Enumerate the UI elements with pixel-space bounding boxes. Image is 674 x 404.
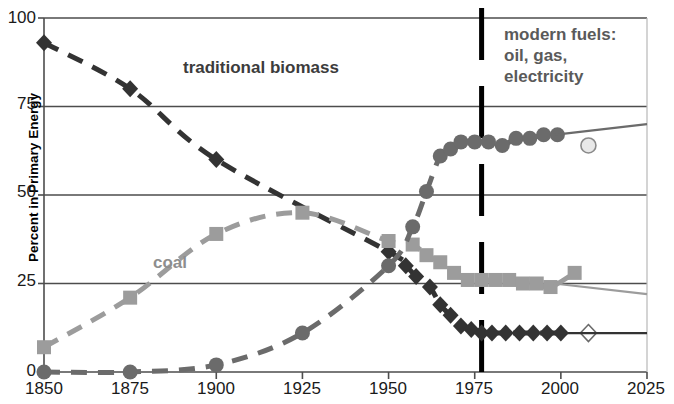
marker-square-1875 <box>123 291 137 305</box>
y-tick-25: 25 <box>0 271 36 291</box>
marker-square-1977 <box>475 273 489 287</box>
x-tick-1950: 1950 <box>348 379 428 399</box>
marker-circle-1925 <box>295 326 310 341</box>
marker-diamond-1984 <box>498 325 514 342</box>
marker-diamond-1988 <box>512 325 528 342</box>
annotation-coal: coal <box>153 253 187 273</box>
marker-square-1973 <box>461 273 475 287</box>
marker-circle-1979 <box>481 134 496 149</box>
x-tick-1925: 1925 <box>262 379 342 399</box>
marker-circle-1875 <box>123 365 138 380</box>
annotation-traditional-biomass: traditional biomass <box>183 58 339 78</box>
marker-circle-1975 <box>467 134 482 149</box>
marker-diamond-1980 <box>484 325 500 342</box>
marker-square-2004 <box>568 266 582 280</box>
marker-square-1993 <box>530 277 544 291</box>
marker-square-1997 <box>544 280 558 294</box>
marker-circle-1987 <box>509 131 524 146</box>
annotation-modern-fuels-line3: electricity <box>504 66 616 87</box>
marker-diamond-1992 <box>525 325 541 342</box>
marker-diamond-1996 <box>539 325 555 342</box>
marker-square-1961 <box>419 248 433 262</box>
x-tick-1850: 1850 <box>4 379 84 399</box>
marker-square-1965 <box>433 255 447 269</box>
x-tick-2000: 2000 <box>520 379 600 399</box>
marker-square-1985 <box>502 273 516 287</box>
x-tick-1975: 1975 <box>434 379 514 399</box>
open-marker-circle <box>581 138 596 153</box>
trend-line-0 <box>554 124 647 135</box>
marker-square-1925 <box>295 206 309 220</box>
marker-diamond-1850 <box>36 34 52 51</box>
x-tick-2025: 2025 <box>606 379 674 399</box>
y-tick-75: 75 <box>0 94 36 114</box>
marker-circle-1971 <box>453 134 468 149</box>
trend-line-1 <box>554 284 647 295</box>
annotation-modern-fuels-line1: modern fuels: <box>504 24 616 45</box>
chart-figure: Percent in Primary Energy 100 75 50 25 0… <box>0 0 674 404</box>
annotation-modern-fuels-line2: oil, gas, <box>504 45 616 66</box>
marker-circle-1961 <box>419 184 434 199</box>
marker-square-1969 <box>447 266 461 280</box>
marker-circle-1995 <box>536 127 551 142</box>
marker-square-1900 <box>209 227 223 241</box>
x-tick-1900: 1900 <box>176 379 256 399</box>
marker-circle-1983 <box>495 138 510 153</box>
x-tick-1875: 1875 <box>90 379 170 399</box>
y-tick-50: 50 <box>0 182 36 202</box>
y-tick-100: 100 <box>0 8 36 28</box>
marker-circle-1850 <box>37 365 52 380</box>
marker-circle-1900 <box>209 357 224 372</box>
y-tick-0: 0 <box>0 361 36 381</box>
marker-square-1850 <box>37 340 51 354</box>
marker-square-1950 <box>382 234 396 248</box>
marker-circle-1991 <box>522 131 537 146</box>
marker-square-1989 <box>516 277 530 291</box>
marker-circle-1957 <box>405 219 420 234</box>
annotation-modern-fuels: modern fuels: oil, gas, electricity <box>504 24 616 87</box>
marker-square-1981 <box>488 273 502 287</box>
marker-circle-1950 <box>381 258 396 273</box>
